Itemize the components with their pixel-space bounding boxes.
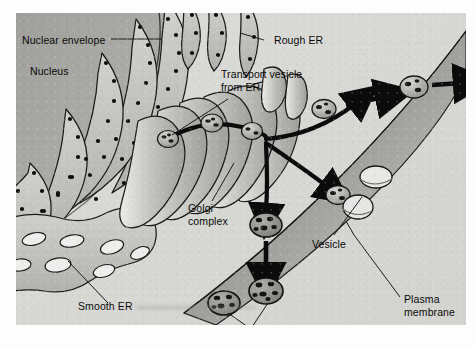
label-smooth-er: Smooth ER <box>78 300 133 313</box>
cell-diagram: Nuclear envelope Nucleus Rough ER Transp… <box>16 13 466 325</box>
empty-vesicle <box>360 166 392 188</box>
diagram-canvas <box>16 13 466 325</box>
label-transport-vesicle: Transport vesicle from ER <box>221 68 302 93</box>
label-nucleus: Nucleus <box>30 65 69 78</box>
label-golgi-complex: Golgi complex <box>188 202 228 227</box>
label-vesicle: Vesicle <box>312 238 346 251</box>
lysosome <box>249 278 283 304</box>
lysosome <box>208 291 240 315</box>
label-plasma-membrane: Plasma membrane <box>404 293 455 318</box>
label-rough-er: Rough ER <box>274 34 323 47</box>
lysosome <box>250 213 282 237</box>
figure-stage: Nuclear envelope Nucleus Rough ER Transp… <box>0 0 474 347</box>
label-nuclear-envelope: Nuclear envelope <box>22 34 105 47</box>
secretory-vesicle <box>312 100 336 119</box>
secretion-arrow <box>432 83 462 85</box>
exocytosis-vesicle <box>400 76 428 98</box>
